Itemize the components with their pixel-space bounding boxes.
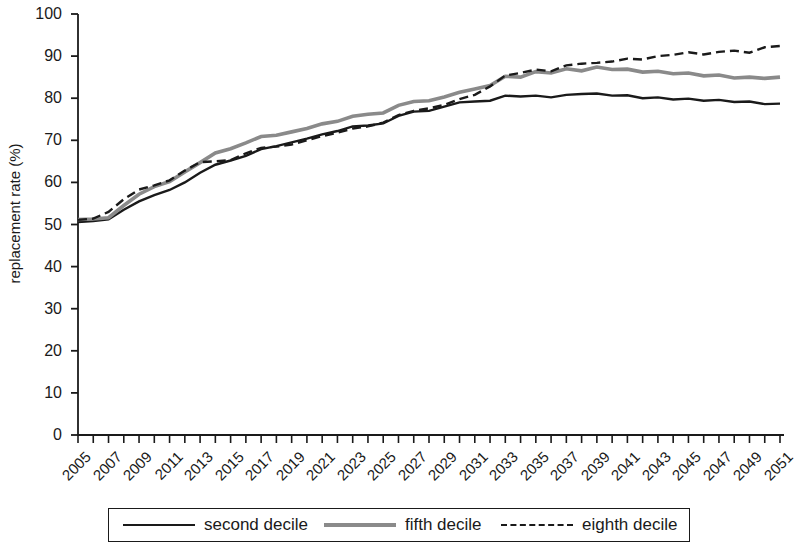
y-tick-0: 0 <box>22 427 62 443</box>
y-axis-label: replacement rate (%) <box>6 114 23 314</box>
y-tick-90: 90 <box>22 48 62 64</box>
y-tick-100: 100 <box>22 6 62 22</box>
legend-label: second decile <box>204 515 308 535</box>
legend-label: eighth decile <box>582 515 677 535</box>
legend-item-second-decile: second decile <box>123 515 308 535</box>
legend-label: fifth decile <box>405 515 482 535</box>
y-tick-80: 80 <box>22 90 62 106</box>
y-tick-50: 50 <box>22 217 62 233</box>
y-tick-30: 30 <box>22 301 62 317</box>
chart-figure: replacement rate (%) 0102030405060708090… <box>0 0 798 544</box>
series-second-decile <box>78 94 780 222</box>
legend-swatch-dashed-icon <box>501 524 573 526</box>
y-tick-40: 40 <box>22 259 62 275</box>
data-series <box>78 46 780 222</box>
chart-legend: second decilefifth decileeighth decile <box>108 508 690 542</box>
series-fifth-decile <box>78 67 780 219</box>
y-tick-10: 10 <box>22 385 62 401</box>
legend-item-eighth-decile: eighth decile <box>501 515 677 535</box>
legend-swatch-solid-gray-icon <box>324 523 396 527</box>
legend-item-fifth-decile: fifth decile <box>324 515 482 535</box>
axis-lines <box>78 14 784 435</box>
axis-ticks <box>71 14 780 443</box>
legend-swatch-solid-black-icon <box>123 524 195 526</box>
y-tick-70: 70 <box>22 132 62 148</box>
y-tick-60: 60 <box>22 174 62 190</box>
y-tick-20: 20 <box>22 343 62 359</box>
